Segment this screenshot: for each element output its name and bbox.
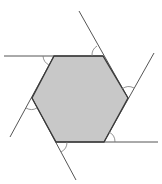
angle-arc-a <box>43 56 49 65</box>
angle-arc-d <box>109 132 115 142</box>
hexagon-fill <box>32 56 128 142</box>
angle-arc-f <box>26 108 37 109</box>
angle-arc-c <box>122 87 134 89</box>
angle-arc-e <box>61 142 67 152</box>
hexagon-diagram <box>0 0 162 184</box>
angle-arc-b <box>92 46 97 56</box>
